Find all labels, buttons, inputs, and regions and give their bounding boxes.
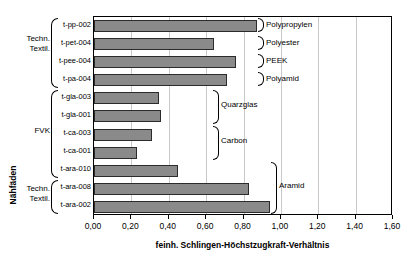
x-tick — [317, 215, 318, 219]
x-tick — [130, 215, 131, 219]
right-bracket-polypropylen — [258, 18, 264, 32]
material-label-polypropylen: Polypropylen — [266, 20, 312, 30]
x-axis-title: feinh. Schlingen-Höchstzugkraft-Verhältn… — [93, 240, 392, 250]
x-tick — [168, 215, 169, 219]
x-tick-label: 0,80 — [223, 221, 263, 232]
right-bracket-peek — [258, 54, 264, 68]
x-tick — [280, 215, 281, 219]
x-tick-label: 1,00 — [260, 221, 300, 232]
material-annotations: Polypropylen Polyester PEEK Polyamid Qua… — [0, 16, 416, 215]
x-tick-label: 1,40 — [335, 221, 375, 232]
x-tick-label: 1,20 — [297, 221, 337, 232]
material-label-peek: PEEK — [266, 56, 287, 66]
x-tick-label: 0,40 — [148, 221, 188, 232]
x-tick-label: 0,00 — [73, 221, 113, 232]
x-tick — [205, 215, 206, 219]
x-tick-label: 0,60 — [185, 221, 225, 232]
right-bracket-polyester — [258, 36, 264, 50]
x-tick — [392, 215, 393, 219]
x-tick — [355, 215, 356, 219]
x-axis-ticks — [93, 215, 392, 220]
x-axis-tick-labels: 0,000,200,400,600,801,001,201,401,60 — [0, 221, 416, 233]
right-bracket-aramid — [271, 162, 277, 214]
material-label-carbon: Carbon — [221, 136, 247, 146]
chart-root: Nähfäden Techn. Textil. FVK Techn. Texti… — [0, 0, 416, 271]
material-label-quarzglas: Quarzglas — [221, 100, 257, 110]
x-tick-label: 1,60 — [372, 221, 412, 232]
material-label-polyamid: Polyamid — [266, 74, 299, 84]
x-tick-label: 0,20 — [110, 221, 150, 232]
cut-off-caption — [30, 0, 290, 7]
right-bracket-carbon — [213, 126, 219, 160]
right-bracket-quarzglas — [213, 90, 219, 124]
x-tick — [243, 215, 244, 219]
material-label-polyester: Polyester — [266, 38, 299, 48]
right-bracket-polyamid — [258, 72, 264, 86]
x-tick — [93, 215, 94, 219]
material-label-aramid: Aramid — [279, 181, 304, 191]
